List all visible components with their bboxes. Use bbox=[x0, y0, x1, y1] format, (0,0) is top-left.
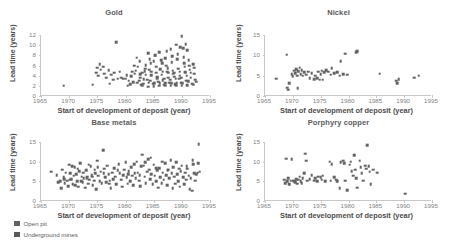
scatter-point bbox=[164, 85, 167, 88]
chart-title-base-metals: Base metals bbox=[0, 118, 228, 127]
scatter-point bbox=[76, 180, 79, 183]
scatter-point bbox=[143, 175, 146, 178]
x-tick-label: 1995 bbox=[424, 202, 438, 209]
scatter-point bbox=[186, 165, 189, 168]
legend-item[interactable]: Open pit bbox=[14, 218, 78, 229]
scatter-point bbox=[155, 180, 158, 183]
plot-area-nickel bbox=[264, 35, 431, 96]
scatter-point bbox=[71, 165, 74, 168]
scatter-point bbox=[310, 174, 313, 177]
scatter-point bbox=[327, 70, 330, 73]
scatter-point bbox=[352, 175, 355, 178]
scatter-point bbox=[184, 171, 187, 174]
x-tick-label: 1985 bbox=[146, 97, 160, 104]
scatter-point bbox=[142, 164, 145, 167]
scatter-point bbox=[191, 189, 194, 192]
y-axis-label-porphyry-copper-text: Lead time (years) bbox=[235, 133, 244, 191]
y-tick-label: 10 bbox=[29, 42, 36, 48]
panel-porphyry-copper: Porphyry copper Lead time (years) 051015… bbox=[228, 118, 449, 218]
y-tick-mark bbox=[39, 142, 42, 143]
x-tick-label: 1995 bbox=[202, 97, 216, 104]
scatter-point bbox=[302, 177, 305, 180]
scatter-point bbox=[359, 166, 362, 169]
scatter-point bbox=[129, 83, 132, 86]
x-axis-label-nickel: Start of development of deposit (year) bbox=[244, 106, 449, 115]
scatter-point bbox=[87, 182, 90, 185]
scatter-point bbox=[85, 177, 88, 180]
x-tick-label: 1980 bbox=[341, 97, 355, 104]
chart-title-gold: Gold bbox=[0, 8, 228, 17]
scatter-point bbox=[164, 57, 167, 60]
scatter-point bbox=[348, 164, 351, 167]
scatter-point bbox=[93, 168, 96, 171]
scatter-point bbox=[169, 48, 172, 51]
panel-base-metals: Base metals Lead time (years) 051015 196… bbox=[0, 118, 228, 218]
scatter-point bbox=[147, 52, 150, 55]
scatter-point bbox=[160, 182, 163, 185]
scatter-point bbox=[108, 182, 111, 185]
scatter-point bbox=[160, 59, 163, 62]
scatter-point bbox=[161, 62, 164, 65]
scatter-point bbox=[136, 81, 139, 84]
scatter-point bbox=[305, 160, 308, 163]
y-tick-mark bbox=[39, 162, 42, 163]
x-axis-label-gold: Start of development of deposit (year) bbox=[20, 106, 228, 115]
scatter-point bbox=[413, 76, 416, 79]
scatter-point bbox=[79, 162, 82, 165]
scatter-point bbox=[322, 175, 325, 178]
scatter-point bbox=[125, 74, 128, 77]
x-tick-label: 1980 bbox=[118, 97, 132, 104]
scatter-point bbox=[114, 175, 117, 178]
scatter-point bbox=[308, 178, 311, 181]
y-axis-label-base-metals: Lead time (years) bbox=[2, 127, 24, 197]
scatter-point bbox=[193, 72, 196, 75]
scatter-point bbox=[124, 161, 127, 164]
scatter-point bbox=[128, 79, 131, 82]
legend-swatch-underground-mines bbox=[14, 232, 20, 238]
scatter-point bbox=[197, 162, 200, 165]
scatter-point bbox=[82, 171, 85, 174]
y-tick-labels-base-metals: 051015 bbox=[22, 142, 38, 200]
scatter-point bbox=[182, 56, 185, 59]
scatter-point bbox=[161, 171, 164, 174]
scatter-point bbox=[77, 186, 80, 189]
scatter-point bbox=[318, 78, 321, 81]
scatter-point bbox=[164, 162, 167, 165]
y-tick-label: 5 bbox=[257, 178, 260, 184]
y-tick-labels-gold: 024681012 bbox=[22, 35, 38, 95]
scatter-point bbox=[55, 174, 58, 177]
scatter-point bbox=[305, 74, 308, 77]
scatter-point bbox=[287, 89, 290, 92]
scatter-point bbox=[135, 160, 138, 163]
scatter-point bbox=[133, 172, 136, 175]
y-tick-mark bbox=[263, 76, 266, 77]
chart-title-nickel: Nickel bbox=[228, 8, 449, 17]
scatter-point bbox=[150, 74, 153, 77]
scatter-point bbox=[194, 179, 197, 182]
scatter-point bbox=[88, 178, 91, 181]
legend-swatch-open-pit bbox=[14, 221, 20, 227]
y-tick-label: 6 bbox=[33, 62, 36, 68]
scatter-point bbox=[144, 64, 147, 67]
scatter-point bbox=[175, 43, 178, 46]
scatter-point bbox=[344, 52, 347, 55]
scatter-point bbox=[153, 175, 156, 178]
scatter-point bbox=[120, 178, 123, 181]
scatter-point bbox=[173, 71, 176, 74]
scatter-point bbox=[331, 67, 334, 70]
scatter-point bbox=[190, 71, 193, 74]
scatter-point bbox=[404, 192, 407, 195]
scatter-point bbox=[356, 50, 359, 53]
scatter-point bbox=[133, 64, 136, 67]
x-tick-label: 1990 bbox=[396, 97, 410, 104]
scatter-point bbox=[303, 172, 306, 175]
x-tick-label: 1965 bbox=[257, 202, 271, 209]
scatter-point bbox=[323, 71, 326, 74]
scatter-point bbox=[329, 74, 332, 77]
scatter-point bbox=[166, 169, 169, 172]
scatter-point bbox=[126, 85, 129, 88]
scatter-point bbox=[115, 183, 118, 186]
scatter-point bbox=[308, 77, 311, 80]
scatter-point bbox=[149, 178, 152, 181]
legend-item[interactable]: Underground mines bbox=[14, 229, 78, 240]
